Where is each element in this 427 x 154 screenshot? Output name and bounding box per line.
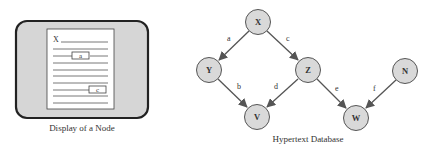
node-label-v: V bbox=[254, 112, 261, 122]
edge-label-f: f bbox=[373, 84, 376, 93]
edge-b bbox=[218, 79, 247, 107]
page-title: X bbox=[53, 35, 59, 44]
edge-e bbox=[317, 79, 346, 108]
edge-c bbox=[267, 31, 298, 60]
edge-label-d: d bbox=[274, 82, 278, 91]
node-labels: X Y Z V W N bbox=[206, 17, 409, 123]
node-label-x: X bbox=[255, 17, 262, 27]
edge-label-e: e bbox=[335, 84, 339, 93]
node-label-z: Z bbox=[305, 65, 311, 75]
node-label-y: Y bbox=[206, 65, 212, 75]
edge-a bbox=[219, 31, 249, 60]
edge-d bbox=[267, 79, 298, 107]
node-label-w: W bbox=[352, 113, 361, 123]
left-caption: Display of a Node bbox=[49, 123, 115, 133]
edge-label-c: c bbox=[286, 34, 290, 43]
node-display-panel: X a c Display of a Node bbox=[16, 21, 148, 133]
diagram-canvas: X a c Display of a Node bbox=[0, 0, 427, 154]
right-caption: Hypertext Database bbox=[272, 134, 343, 144]
edge-label-a: a bbox=[227, 34, 231, 43]
hypertext-graph: a c b d e f X Y Z V W N Hypertext Databa… bbox=[197, 10, 418, 145]
node-label-n: N bbox=[402, 66, 409, 76]
edge-label-b: b bbox=[237, 82, 241, 91]
anchor-c-label: c bbox=[96, 86, 99, 94]
edge-f bbox=[366, 80, 396, 108]
